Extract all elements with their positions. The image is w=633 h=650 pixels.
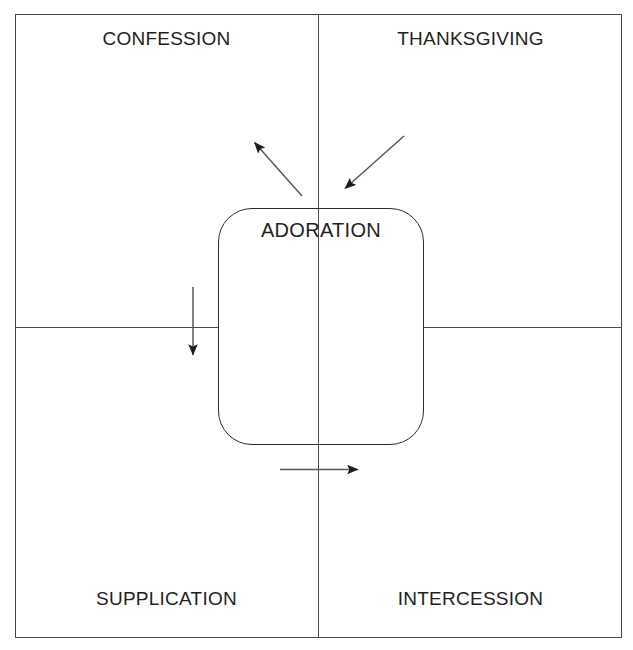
quadrant-label-supplication: SUPPLICATION [15,588,318,610]
horizontal-divider-right [423,327,622,329]
cut-off-text-sliver [0,0,633,7]
diagram-canvas: ADORATION CONFESSION THANKSGIVING SUPPLI… [0,0,633,650]
quadrant-label-confession: CONFESSION [15,28,318,50]
quadrant-label-intercession: INTERCESSION [319,588,622,610]
adoration-node-label: ADORATION [218,219,424,242]
horizontal-divider-left [15,327,219,329]
adoration-node [218,208,424,445]
quadrant-label-thanksgiving: THANKSGIVING [319,28,622,50]
